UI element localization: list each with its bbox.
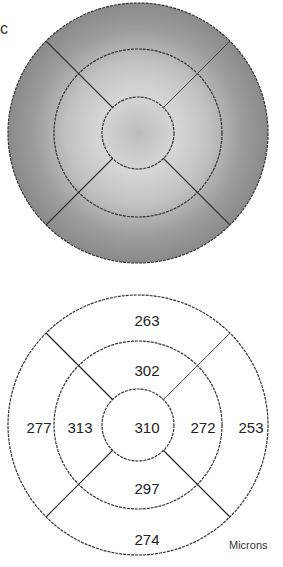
inner-inferior-value: 297 — [134, 480, 159, 497]
outer-temporal-value: 253 — [238, 419, 263, 436]
thickness-heatmap-grid — [0, 0, 283, 270]
outer-inferior-value: 274 — [134, 531, 159, 548]
outer-nasal-value: 277 — [26, 419, 51, 436]
inner-temporal-value: 272 — [190, 419, 215, 436]
inner-nasal-value: 313 — [67, 419, 92, 436]
center-value: 310 — [134, 419, 159, 436]
inner-superior-value: 302 — [134, 362, 159, 379]
units-label: Microns — [229, 539, 268, 551]
etdrs-grid: 263 302 277 313 310 272 253 297 274 Micr… — [0, 285, 283, 567]
outer-superior-value: 263 — [134, 312, 159, 329]
thickness-value-grid: 263 302 277 313 310 272 253 297 274 Micr… — [0, 285, 283, 567]
retinal-thickness-image — [0, 0, 283, 270]
